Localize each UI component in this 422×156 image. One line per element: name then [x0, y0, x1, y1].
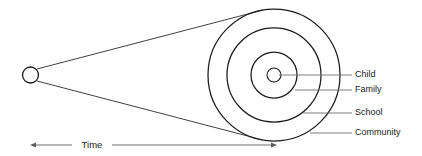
time-axis-left-arrowhead	[30, 142, 36, 147]
ring-label-family: Family	[355, 84, 382, 94]
time-axis-group: Time	[30, 139, 277, 150]
ring-labels-group: Child Family School Community	[355, 69, 401, 137]
ring-label-community: Community	[355, 127, 401, 137]
ring-label-child: Child	[355, 69, 376, 79]
ecological-systems-diagram: Child Family School Community Time	[0, 0, 422, 156]
cone-group	[37, 10, 263, 140]
diagram-canvas: Child Family School Community Time	[0, 0, 422, 156]
ring-label-school: School	[355, 107, 383, 117]
ring-child	[267, 68, 281, 82]
time-axis-label: Time	[82, 139, 103, 150]
leader-lines-group	[279, 75, 352, 133]
time-axis-right-arrowhead	[271, 142, 277, 147]
origin-circle	[23, 67, 39, 83]
